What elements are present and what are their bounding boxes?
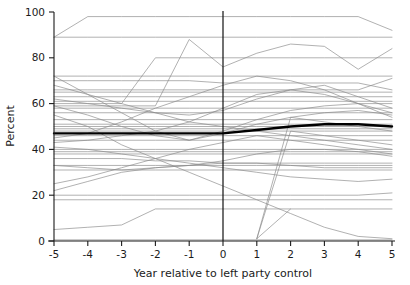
chart-canvas: 020406080100-5-4-3-2-1012345 Percent Yea… [0, 0, 410, 285]
x-axis-tick-label: 2 [287, 248, 294, 260]
y-axis-tick-label: 40 [32, 143, 45, 155]
y-axis-title: Percent [4, 105, 17, 147]
y-axis-tick-label: 80 [32, 51, 45, 63]
x-axis-tick-label: 3 [321, 248, 328, 260]
x-axis-tick-label: 0 [220, 248, 227, 260]
x-axis-tick-label: 1 [253, 248, 260, 260]
chart-figure: 020406080100-5-4-3-2-1012345 Percent Yea… [0, 0, 410, 285]
x-axis-tick-label: -3 [116, 248, 126, 260]
x-axis-tick-label: 5 [389, 248, 396, 260]
y-axis-tick-label: 0 [38, 235, 45, 247]
x-axis-title: Year relative to left party control [133, 267, 312, 280]
chart-background [0, 0, 410, 285]
y-axis-tick-label: 100 [25, 6, 45, 18]
x-axis-tick-label: 4 [355, 248, 362, 260]
x-axis-tick-label: -2 [150, 248, 160, 260]
y-axis-tick-label: 20 [32, 189, 45, 201]
x-axis-tick-label: -1 [184, 248, 194, 260]
x-axis-tick-label: -4 [83, 248, 94, 260]
y-axis-tick-label: 60 [32, 97, 45, 109]
x-axis-tick-label: -5 [49, 248, 59, 260]
